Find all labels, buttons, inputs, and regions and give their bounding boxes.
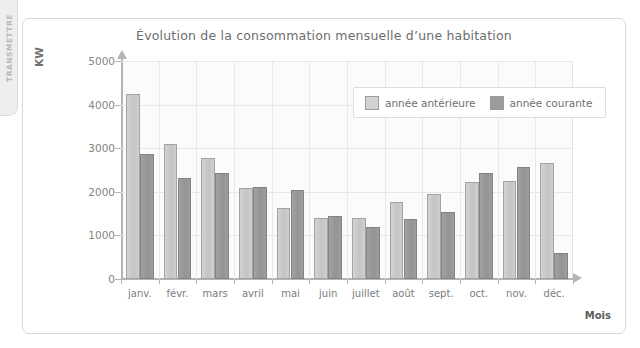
x-axis-label: Mois xyxy=(585,310,611,321)
legend: année antérieure année courante xyxy=(353,87,606,118)
y-tick-mark xyxy=(115,192,121,193)
bar xyxy=(277,208,291,279)
x-tick-mark xyxy=(422,279,423,284)
bar xyxy=(140,154,154,279)
bar xyxy=(352,218,366,279)
legend-label: année antérieure xyxy=(385,97,476,109)
x-tick-mark xyxy=(498,279,499,284)
x-tick-mark xyxy=(121,279,122,284)
bar xyxy=(479,173,493,279)
y-axis-arrow-icon xyxy=(117,50,127,59)
y-tick-label: 5000 xyxy=(69,55,115,67)
side-tab-label: TRANSMETTRE xyxy=(4,14,13,82)
x-tick-label: oct. xyxy=(469,288,488,299)
x-tick-mark xyxy=(347,279,348,284)
y-tick-mark xyxy=(115,105,121,106)
bar xyxy=(328,216,342,279)
gridline-vertical xyxy=(159,61,160,279)
x-tick-label: janv. xyxy=(128,288,152,299)
y-tick-label: 3000 xyxy=(69,142,115,154)
bar xyxy=(178,178,192,279)
y-tick-label: 2000 xyxy=(69,186,115,198)
x-tick-mark xyxy=(385,279,386,284)
x-tick-label: mars xyxy=(203,288,228,299)
chart-figure: Évolution de la consommation mensuelle d… xyxy=(22,18,626,334)
bar xyxy=(215,173,229,279)
x-tick-label: nov. xyxy=(506,288,527,299)
bar xyxy=(291,190,305,279)
legend-item-previous-year: année antérieure xyxy=(365,96,476,110)
y-tick-label: 4000 xyxy=(69,99,115,111)
x-axis-arrow-icon xyxy=(573,273,582,283)
x-tick-label: août xyxy=(392,288,415,299)
x-tick-mark xyxy=(460,279,461,284)
x-tick-label: juin xyxy=(319,288,337,299)
y-tick-label: 0 xyxy=(69,273,115,285)
legend-swatch-icon xyxy=(490,96,504,110)
x-tick-mark xyxy=(535,279,536,284)
bar xyxy=(427,194,441,279)
bar xyxy=(201,158,215,279)
bar xyxy=(441,212,455,279)
chart-title: Évolution de la consommation mensuelle d… xyxy=(23,28,625,43)
x-tick-mark xyxy=(272,279,273,284)
x-tick-mark xyxy=(573,279,574,284)
x-tick-mark xyxy=(234,279,235,284)
gridline-vertical xyxy=(234,61,235,279)
bar xyxy=(164,144,178,279)
x-tick-label: avril xyxy=(242,288,264,299)
x-tick-label: juillet xyxy=(352,288,380,299)
legend-item-current-year: année courante xyxy=(490,96,593,110)
bar xyxy=(314,218,328,279)
gridline-vertical xyxy=(347,61,348,279)
x-tick-label: sept. xyxy=(429,288,454,299)
bar xyxy=(465,182,479,279)
bar xyxy=(503,181,517,279)
bar xyxy=(126,94,140,279)
x-tick-mark xyxy=(196,279,197,284)
gridline-vertical xyxy=(309,61,310,279)
x-tick-mark xyxy=(309,279,310,284)
bar xyxy=(239,188,253,279)
bar xyxy=(554,253,568,279)
bar xyxy=(390,202,404,279)
y-tick-mark xyxy=(115,148,121,149)
y-axis-label: KW xyxy=(33,47,45,67)
legend-swatch-icon xyxy=(365,96,379,110)
x-tick-mark xyxy=(159,279,160,284)
bar xyxy=(366,227,380,279)
x-tick-label: déc. xyxy=(544,288,565,299)
y-axis-line xyxy=(121,57,123,279)
bar xyxy=(253,187,267,279)
y-tick-mark xyxy=(115,61,121,62)
bar xyxy=(404,219,418,279)
legend-label: année courante xyxy=(510,97,593,109)
x-tick-label: mai xyxy=(281,288,300,299)
gridline-vertical xyxy=(272,61,273,279)
bar xyxy=(540,163,554,279)
bar xyxy=(517,167,531,279)
side-tab[interactable]: TRANSMETTRE xyxy=(0,0,18,116)
y-tick-label: 1000 xyxy=(69,229,115,241)
y-tick-mark xyxy=(115,235,121,236)
gridline-vertical xyxy=(196,61,197,279)
x-tick-label: févr. xyxy=(167,288,189,299)
